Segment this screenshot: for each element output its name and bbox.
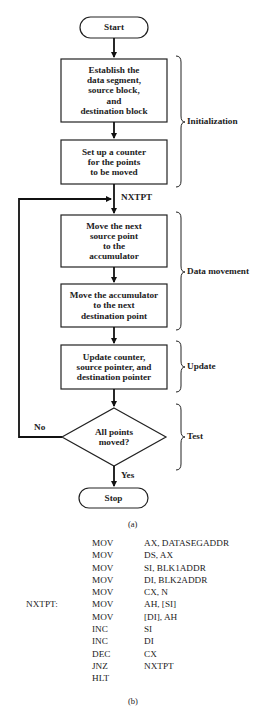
code-label: NXTPT: [26, 598, 58, 610]
group-label-data-movement: Data movement [187, 266, 249, 276]
group-label-test: Test [187, 431, 203, 441]
code-line: MOVDS, AX [0, 549, 272, 561]
operands: NXTPT [144, 660, 174, 672]
mnemonic: MOV [92, 574, 113, 586]
step-update-pointers: Update counter, source pointer, and dest… [61, 345, 167, 389]
operands: [DI], AH [144, 611, 177, 623]
code-line: JNZNXTPT [0, 660, 272, 672]
step-move-destination: Move the accumulator to the next destina… [61, 284, 167, 327]
brace-update [176, 341, 185, 392]
step-move-source: Move the next source point to the accumu… [61, 215, 167, 267]
step-establish-segments: Establish the data segment, source block… [61, 59, 167, 122]
loop-label-nxtpt: NXTPT [121, 192, 152, 202]
code-line: MOV[DI], AH [0, 611, 272, 623]
brace-initialization [176, 56, 185, 187]
operands: DI [144, 635, 154, 647]
step-setup-counter: Set up a counter for the points to be mo… [61, 140, 167, 184]
code-line: DECCX [0, 648, 272, 660]
operands: CX, N [144, 586, 168, 598]
decision-yes-label: Yes [121, 470, 134, 480]
brace-data-movement [176, 212, 185, 330]
mnemonic: MOV [92, 586, 113, 598]
mnemonic: MOV [92, 598, 113, 610]
mnemonic: DEC [92, 648, 110, 660]
code-line: HLT [0, 672, 272, 684]
caption-b: (b) [128, 696, 138, 706]
mnemonic: MOV [92, 549, 113, 561]
decision-no-label: No [34, 422, 45, 432]
mnemonic: HLT [92, 672, 109, 684]
start-terminator: Start [80, 17, 148, 38]
mnemonic: MOV [92, 537, 113, 549]
group-label-update: Update [187, 361, 216, 371]
caption-a: (a) [128, 519, 137, 529]
mnemonic: INC [92, 635, 108, 647]
operands: SI, BLK1ADDR [144, 562, 206, 574]
code-line: MOVDI, BLK2ADDR [0, 574, 272, 586]
code-line: INCDI [0, 635, 272, 647]
start-label: Start [104, 22, 124, 32]
operands: AH, [SI] [144, 598, 176, 610]
operands: CX [144, 648, 157, 660]
mnemonic: INC [92, 623, 108, 635]
stop-label: Stop [105, 493, 123, 503]
stop-terminator: Stop [79, 488, 148, 508]
mnemonic: JNZ [92, 660, 108, 672]
operands: DI, BLK2ADDR [144, 574, 207, 586]
brace-test [176, 404, 185, 470]
operands: AX, DATASEGADDR [144, 537, 229, 549]
operands: SI [144, 623, 152, 635]
operands: DS, AX [144, 549, 173, 561]
mnemonic: MOV [92, 611, 113, 623]
code-line: INCSI [0, 623, 272, 635]
group-label-initialization: Initialization [187, 116, 238, 126]
code-line: MOVSI, BLK1ADDR [0, 562, 272, 574]
decision-all-points-moved: All points moved? [72, 420, 156, 454]
assembly-listing: MOVAX, DATASEGADDR MOVDS, AX MOVSI, BLK1… [0, 537, 272, 685]
code-line: NXTPT:MOVAH, [SI] [0, 598, 272, 610]
code-line: MOVCX, N [0, 586, 272, 598]
code-line: MOVAX, DATASEGADDR [0, 537, 272, 549]
mnemonic: MOV [92, 562, 113, 574]
